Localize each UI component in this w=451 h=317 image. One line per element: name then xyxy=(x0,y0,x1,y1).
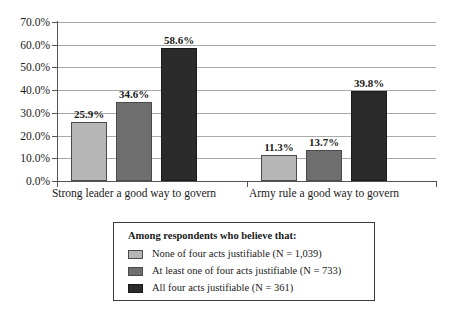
bar xyxy=(261,155,297,181)
legend-entry-label: None of four acts justifiable (N = 1,039… xyxy=(152,247,322,260)
bar xyxy=(116,102,152,181)
legend-title: Among respondents who believe that: xyxy=(128,230,296,241)
bar-value-label: 25.9% xyxy=(63,108,115,120)
y-axis-tick-label: 0.0% xyxy=(0,175,50,187)
bar xyxy=(71,122,107,181)
plot-area xyxy=(58,22,436,181)
legend: Among respondents who believe that: None… xyxy=(113,222,375,301)
legend-swatch xyxy=(128,267,143,276)
gridline xyxy=(58,67,436,68)
category-label: Army rule a good way to govern xyxy=(214,187,434,199)
y-axis-tick-label: 50.0% xyxy=(0,61,50,73)
bar xyxy=(161,48,197,181)
bar-chart-figure: 0.0%10.0%20.0%30.0%40.0%50.0%60.0%70.0% … xyxy=(0,0,451,317)
x-axis-end-tick-right xyxy=(436,181,437,187)
y-axis-tick-label: 30.0% xyxy=(0,107,50,119)
legend-swatch xyxy=(128,250,143,259)
bar-value-label: 58.6% xyxy=(153,34,205,46)
legend-swatch xyxy=(128,284,143,293)
y-axis-tick-label: 40.0% xyxy=(0,84,50,96)
legend-entry-label: All four acts justifiable (N = 361) xyxy=(152,281,293,294)
bar xyxy=(351,91,387,181)
y-axis-tick-label: 20.0% xyxy=(0,130,50,142)
bar xyxy=(306,150,342,181)
y-axis-tick-label: 10.0% xyxy=(0,152,50,164)
bar-value-label: 39.8% xyxy=(343,77,395,89)
bar-value-label: 34.6% xyxy=(108,88,160,100)
category-label: Strong leader a good way to govern xyxy=(24,187,244,199)
y-axis-tick-label: 60.0% xyxy=(0,39,50,51)
legend-entry-label: At least one of four acts justifiable (N… xyxy=(152,264,341,277)
gridline xyxy=(58,22,436,23)
bar-value-label: 13.7% xyxy=(298,136,350,148)
gridline xyxy=(58,45,436,46)
y-axis-tick-label: 70.0% xyxy=(0,16,50,28)
